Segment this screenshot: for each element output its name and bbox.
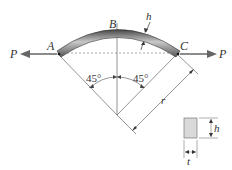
- point-b-label: B: [109, 17, 117, 31]
- curved-bar-diagram: 45° 45° A B C h P P r: [0, 0, 232, 170]
- load-p-right-label: P: [218, 47, 227, 61]
- point-a-marker: [58, 53, 61, 56]
- point-c-marker: [177, 53, 180, 56]
- radius-label: r: [161, 94, 166, 106]
- cross-section: [184, 118, 197, 138]
- point-c-label: C: [180, 39, 189, 53]
- section-t-arrow-right: [192, 150, 196, 154]
- section-h-label: h: [214, 122, 220, 134]
- angle-right-label: 45°: [133, 72, 148, 84]
- section-h-arrow-bottom: [209, 133, 213, 137]
- load-p-left-label: P: [9, 47, 18, 61]
- point-a-label: A: [46, 39, 55, 53]
- angle-left-label: 45°: [86, 72, 101, 84]
- thickness-h-label: h: [146, 10, 152, 22]
- section-h-arrow-top: [209, 119, 213, 123]
- section-t-arrow-left: [185, 150, 189, 154]
- section-t-label: t: [187, 155, 191, 167]
